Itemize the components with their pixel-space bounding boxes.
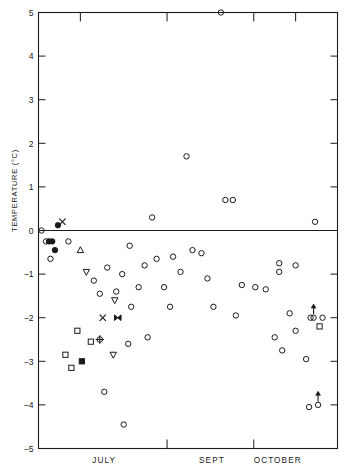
open-circle-marker (293, 263, 298, 268)
filled-circle-marker (52, 247, 57, 252)
scatter-plot: 543210−1−2−3−4−5JULYSEPTOCTOBER (0, 0, 348, 472)
series-down-triangle (83, 269, 118, 358)
open-circle-marker (66, 239, 71, 244)
open-circle-marker (279, 348, 284, 353)
series-open-square (63, 324, 322, 371)
open-circle-marker (306, 404, 311, 409)
open-circle-marker (105, 265, 110, 270)
open-circle-marker (145, 335, 150, 340)
filled-circle-marker (55, 223, 60, 228)
y-tick-label: −3 (24, 357, 34, 367)
open-circle-marker (276, 261, 281, 266)
open-circle-marker (312, 219, 317, 224)
limit-arrow-head (316, 391, 321, 395)
open-circle-marker (223, 197, 228, 202)
open-circle-marker (128, 304, 133, 309)
open-circle-marker (48, 256, 53, 261)
figure: 543210−1−2−3−4−5JULYSEPTOCTOBER TEMPERAT… (0, 0, 348, 472)
y-axis-label: TEMPERATURE (°C) (10, 139, 19, 243)
open-circle-marker (205, 276, 210, 281)
series-circle-up-arrow (311, 304, 321, 407)
series-open-circle (39, 10, 325, 427)
y-tick-label: 1 (29, 182, 34, 192)
y-tick-label: 5 (29, 8, 34, 18)
open-circle-marker (230, 197, 235, 202)
y-tick-label: 0 (29, 226, 34, 236)
open-square-marker (88, 339, 93, 344)
open-square-marker (63, 352, 68, 357)
open-circle-marker (293, 328, 298, 333)
open-circle-marker (233, 313, 238, 318)
down-triangle-marker (112, 298, 118, 304)
open-circle-marker (167, 304, 172, 309)
open-circle-marker (154, 256, 159, 261)
x-marker (59, 219, 65, 225)
open-circle-marker (287, 311, 292, 316)
y-tick-label: −2 (24, 313, 34, 323)
open-circle-marker (303, 356, 308, 361)
series-filled-square (79, 359, 84, 364)
series-crossed-circle (96, 335, 104, 343)
open-circle-marker (320, 315, 325, 320)
y-tick-label: −1 (24, 269, 34, 279)
figure-caption (6, 463, 346, 472)
x-marker (100, 315, 106, 321)
open-square-marker (317, 324, 322, 329)
open-circle-marker (121, 422, 126, 427)
open-circle-marker (211, 304, 216, 309)
open-circle-marker (178, 269, 183, 274)
crossed-circle-cross (96, 335, 104, 343)
down-triangle-marker (83, 269, 89, 275)
open-circle-marker (239, 282, 244, 287)
open-circle-marker (161, 284, 166, 289)
open-circle-marker (272, 335, 277, 340)
y-tick-label: 4 (29, 51, 34, 61)
up-triangle-marker (77, 247, 83, 253)
limit-arrow-head (311, 304, 316, 308)
open-circle-marker (97, 291, 102, 296)
open-circle-marker (199, 250, 204, 255)
open-circle-marker (263, 287, 268, 292)
y-tick-label: −5 (24, 444, 34, 454)
open-square-marker (69, 365, 74, 370)
open-circle-marker (170, 254, 175, 259)
open-square-marker (75, 328, 80, 333)
series-filled-circle (46, 223, 60, 253)
open-circle-marker (136, 284, 141, 289)
series-cross-x (59, 219, 106, 321)
open-circle-marker (190, 247, 195, 252)
open-circle-marker (126, 341, 131, 346)
limit-circle-marker (315, 402, 320, 407)
open-circle-marker (102, 389, 107, 394)
open-circle-marker (91, 278, 96, 283)
open-circle-marker (184, 154, 189, 159)
y-tick-label: 2 (29, 139, 34, 149)
open-circle-marker (149, 215, 154, 220)
open-circle-marker (142, 263, 147, 268)
bowtie-marker (114, 315, 121, 321)
open-circle-marker (253, 284, 258, 289)
open-circle-marker (114, 289, 119, 294)
open-circle-marker (276, 269, 281, 274)
series-bowtie (114, 315, 121, 321)
down-triangle-marker (110, 352, 116, 358)
series-up-triangle (77, 247, 83, 253)
open-circle-marker (120, 271, 125, 276)
filled-circle-marker (50, 239, 55, 244)
y-tick-label: −4 (24, 400, 34, 410)
open-circle-marker (127, 243, 132, 248)
filled-square-marker (79, 359, 84, 364)
y-tick-label: 3 (29, 95, 34, 105)
